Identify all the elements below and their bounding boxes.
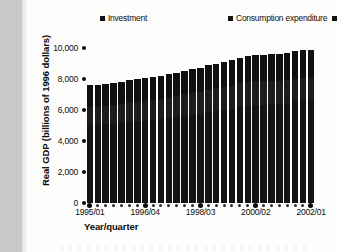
bar-segment: [87, 107, 94, 125]
bar-segment: [134, 121, 141, 203]
bar-segment: [150, 120, 157, 203]
y-axis-tick-label: 10,000: [53, 43, 78, 53]
bar-segment: [245, 82, 252, 106]
bar-segment: [197, 114, 204, 203]
bar-segment: [252, 105, 259, 203]
bar-segment: [229, 109, 236, 203]
bar-segment: [252, 81, 259, 105]
bar-segment: [134, 102, 141, 122]
bar-column: [197, 68, 204, 203]
bar-column: [150, 77, 157, 203]
bar-segment: [87, 85, 94, 107]
legend-item: Consumption expenditure: [228, 12, 332, 24]
bar-segment: [292, 51, 299, 79]
bar-segment: [213, 64, 220, 89]
legend-item-label: Investment: [108, 12, 147, 24]
bar-column: [292, 51, 299, 203]
bar-column: [284, 53, 291, 203]
bar-column: [260, 55, 267, 203]
bar-segment: [268, 54, 275, 81]
bar-segment: [260, 105, 267, 203]
bar-column: [173, 73, 180, 204]
x-axis-tick-label: 1995/01: [75, 207, 104, 217]
bar-segment: [142, 121, 149, 203]
bar-column: [142, 78, 149, 203]
bar-column: [158, 76, 165, 203]
bar-segment: [237, 83, 244, 107]
legend-swatch-icon: [228, 16, 233, 21]
y-axis-tick-label: 4,000: [58, 136, 78, 146]
bar-column: [181, 70, 188, 203]
bar-column: [87, 85, 94, 203]
bar-segment: [197, 92, 204, 114]
bar-segment: [300, 78, 307, 100]
bar-segment: [173, 73, 180, 96]
bar-series-group: [86, 48, 315, 203]
plot-area: 10,0008,0006,0004,0002,0000: [86, 48, 315, 203]
bar-segment: [95, 125, 102, 203]
bar-segment: [213, 111, 220, 203]
bar-segment: [158, 76, 165, 99]
bar-segment: [308, 100, 315, 203]
bar-segment: [181, 94, 188, 116]
bar-segment: [308, 78, 315, 100]
bar-segment: [268, 104, 275, 203]
bar-column: [95, 85, 102, 203]
bar-segment: [292, 101, 299, 203]
bar-segment: [308, 50, 315, 79]
bar-segment: [245, 56, 252, 82]
y-axis-title: Real GDP (billions of 1996 dollars): [40, 21, 51, 201]
bar-segment: [276, 81, 283, 104]
legend-item: Net exports(negative): [332, 12, 337, 24]
page-gutter: [0, 0, 22, 252]
bar-segment: [292, 79, 299, 101]
bar-column: [110, 83, 117, 203]
bar-segment: [300, 100, 307, 203]
bar-segment: [300, 50, 307, 78]
legend-swatch-icon: [332, 16, 337, 21]
bar-column: [252, 55, 259, 203]
bar-column: [134, 79, 141, 203]
bar-segment: [126, 122, 133, 203]
bar-column: [126, 80, 133, 203]
x-axis-tick-labels: 1995/011996/041998/032000/022002/01: [60, 207, 331, 221]
bar-segment: [229, 60, 236, 85]
bar-segment: [284, 103, 291, 203]
bar-segment: [173, 117, 180, 203]
x-axis-tick-label: 1998/03: [186, 207, 215, 217]
y-axis-tick: 6,000: [58, 105, 86, 115]
bar-segment: [95, 85, 102, 107]
bar-column: [205, 65, 212, 203]
y-axis-tick-label: 8,000: [58, 74, 78, 84]
bar-column: [237, 58, 244, 203]
bar-segment: [260, 55, 267, 81]
bar-segment: [189, 69, 196, 93]
bar-segment: [134, 79, 141, 101]
bar-segment: [110, 105, 117, 124]
bar-segment: [237, 58, 244, 84]
bar-segment: [189, 93, 196, 115]
x-axis-tick-label: 2002/01: [296, 207, 325, 217]
bar-column: [276, 54, 283, 203]
y-axis-tick: 2,000: [58, 167, 86, 177]
legend-item: Investment: [100, 12, 228, 24]
bar-column: [189, 69, 196, 203]
bar-column: [118, 82, 125, 203]
bar-segment: [260, 81, 267, 104]
y-axis-tick: 10,000: [53, 43, 86, 53]
bar-segment: [166, 98, 173, 119]
scan-bleed: [60, 245, 310, 251]
bar-segment: [158, 119, 165, 203]
bar-segment: [102, 84, 109, 106]
bar-segment: [189, 115, 196, 203]
bar-segment: [181, 71, 188, 95]
legend-item-label: Consumption expenditure: [236, 12, 327, 24]
bar-segment: [205, 65, 212, 90]
bar-segment: [173, 96, 180, 117]
bar-segment: [87, 125, 94, 203]
bar-segment: [118, 104, 125, 123]
bar-segment: [221, 110, 228, 203]
bar-segment: [252, 55, 259, 81]
x-axis-tick-label: 2000/02: [241, 207, 270, 217]
bar-segment: [237, 107, 244, 203]
